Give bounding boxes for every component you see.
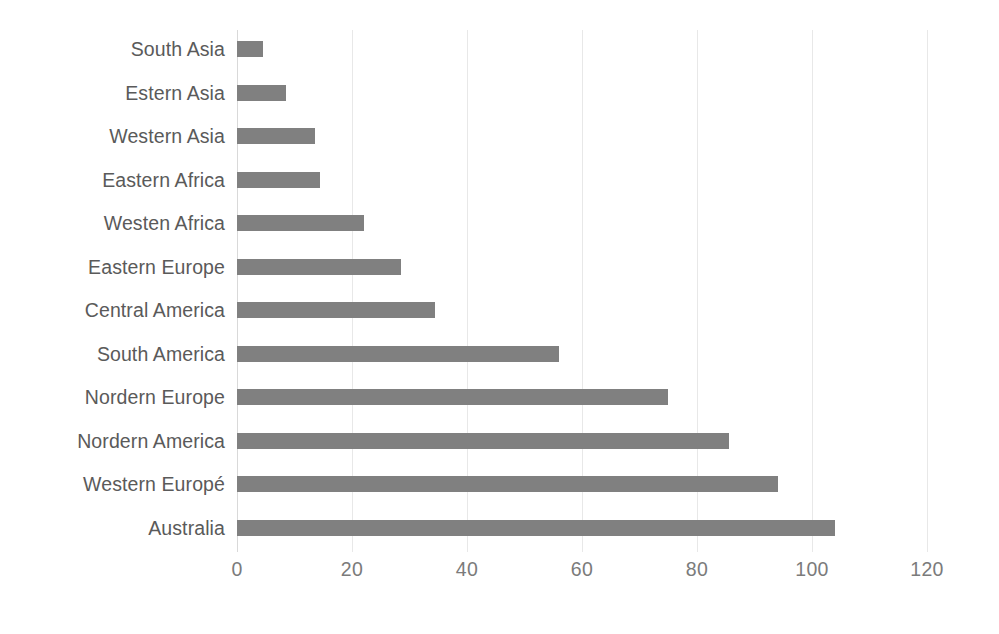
category-label-wrap: Central America	[0, 291, 225, 335]
bar-row: Australia	[237, 509, 927, 553]
category-label: Western Asia	[5, 125, 225, 148]
category-label: Eastern Africa	[5, 169, 225, 192]
bar-row: South Asia	[237, 30, 927, 74]
category-label: Australia	[5, 517, 225, 540]
bar[interactable]	[237, 41, 263, 57]
category-label-wrap: Western Asia	[0, 117, 225, 161]
bar[interactable]	[237, 215, 364, 231]
category-label-wrap: South America	[0, 335, 225, 379]
x-axis-tick-label: 120	[910, 558, 943, 581]
category-label: Westen Africa	[5, 212, 225, 235]
bar[interactable]	[237, 259, 401, 275]
bar[interactable]	[237, 85, 286, 101]
bar[interactable]	[237, 128, 315, 144]
x-axis-tick-label: 60	[571, 558, 593, 581]
bar-row: Western Asia	[237, 117, 927, 161]
category-label: Central America	[5, 299, 225, 322]
category-label-wrap: Eastern Europe	[0, 248, 225, 292]
bar[interactable]	[237, 389, 668, 405]
gridline-120	[927, 30, 928, 552]
category-label: South Asia	[5, 38, 225, 61]
bar-row: Nordern America	[237, 422, 927, 466]
category-label-wrap: Eastern Africa	[0, 161, 225, 205]
bar-row: Westen Africa	[237, 204, 927, 248]
bar[interactable]	[237, 346, 559, 362]
bar[interactable]	[237, 433, 729, 449]
category-label-wrap: Nordern Europe	[0, 378, 225, 422]
category-label: Estern Asia	[5, 82, 225, 105]
bar-row: South America	[237, 335, 927, 379]
bar-row: Eastern Africa	[237, 161, 927, 205]
plot-area: South AsiaEstern AsiaWestern AsiaEastern…	[237, 30, 927, 552]
bar-row: Central America	[237, 291, 927, 335]
bar[interactable]	[237, 302, 435, 318]
bar-row: Eastern Europe	[237, 248, 927, 292]
bar-row: Nordern Europe	[237, 378, 927, 422]
x-axis: 020406080100120	[237, 558, 927, 598]
bar[interactable]	[237, 172, 320, 188]
x-axis-tick-label: 0	[231, 558, 242, 581]
category-label-wrap: Estern Asia	[0, 74, 225, 118]
bar-chart: South AsiaEstern AsiaWestern AsiaEastern…	[0, 0, 999, 634]
category-label-wrap: Westen Africa	[0, 204, 225, 248]
x-axis-tick-label: 100	[795, 558, 828, 581]
x-axis-tick-label: 80	[686, 558, 708, 581]
category-label: South America	[5, 343, 225, 366]
category-label-wrap: South Asia	[0, 30, 225, 74]
bar[interactable]	[237, 476, 778, 492]
category-label: Western Europé	[5, 473, 225, 496]
category-label-wrap: Western Europé	[0, 465, 225, 509]
bar-row: Estern Asia	[237, 74, 927, 118]
category-label: Eastern Europe	[5, 256, 225, 279]
category-label: Nordern Europe	[5, 386, 225, 409]
category-label: Nordern America	[5, 430, 225, 453]
x-axis-tick-label: 40	[456, 558, 478, 581]
bar[interactable]	[237, 520, 835, 536]
bar-row: Western Europé	[237, 465, 927, 509]
category-label-wrap: Australia	[0, 509, 225, 553]
category-label-wrap: Nordern America	[0, 422, 225, 466]
x-axis-tick-label: 20	[341, 558, 363, 581]
